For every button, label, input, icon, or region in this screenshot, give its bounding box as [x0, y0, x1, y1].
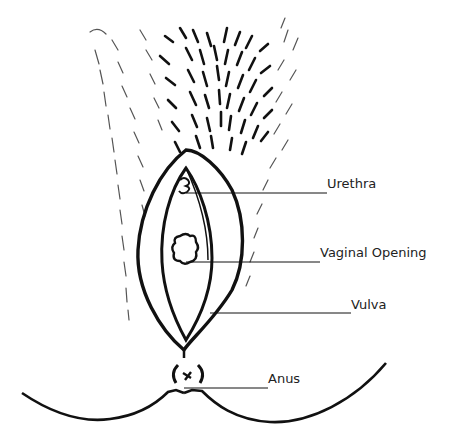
label-anus: Anus — [268, 372, 300, 385]
diagram-drawing — [0, 0, 455, 445]
anus-mark — [183, 372, 191, 380]
inner-outline — [162, 168, 212, 340]
label-urethra: Urethra — [327, 177, 376, 190]
label-vaginal-opening: Vaginal Opening — [320, 246, 427, 259]
buttock-left — [22, 390, 184, 420]
hair-strokes — [90, 18, 298, 320]
label-vulva: Vulva — [351, 298, 387, 311]
outer-outline — [138, 150, 243, 350]
vaginal-opening-shape — [172, 234, 198, 264]
urethra-mark — [179, 178, 189, 193]
anatomy-diagram: Urethra Vaginal Opening Vulva Anus — [0, 0, 455, 445]
